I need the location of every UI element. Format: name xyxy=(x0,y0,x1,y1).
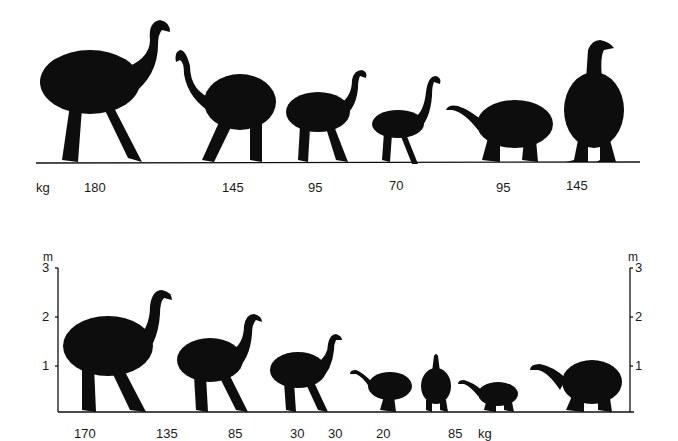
right-axis-tick-3: 3 xyxy=(635,261,642,275)
top-weight-label-6: 145 xyxy=(566,179,588,193)
bottom-bird-d-silhouette xyxy=(350,370,412,412)
bottom-weight-label-a: 170 xyxy=(74,427,96,441)
bottom-bird-c-silhouette xyxy=(270,334,342,412)
top-bird-6-silhouette xyxy=(564,40,624,162)
bottom-bird-b-silhouette xyxy=(177,314,262,412)
top-weight-label-3: 95 xyxy=(308,181,322,195)
right-axis-tick-1: 1 xyxy=(635,359,642,373)
bottom-weight-label-d: 30 xyxy=(290,427,304,441)
top-weight-label-5: 95 xyxy=(496,181,510,195)
bottom-weight-label-c: 85 xyxy=(228,427,242,441)
bottom-bird-a-silhouette xyxy=(63,290,172,412)
top-bird-4-silhouette xyxy=(372,76,441,164)
top-bird-3-silhouette xyxy=(286,70,367,162)
top-bird-2-silhouette xyxy=(176,50,277,162)
bottom-unit-label: kg xyxy=(478,427,492,441)
left-axis-tick-1: 1 xyxy=(42,359,49,373)
left-axis-tick-3: 3 xyxy=(42,261,49,275)
bottom-bird-e-silhouette xyxy=(421,354,451,412)
bottom-weight-label-g: 85 xyxy=(448,427,462,441)
left-axis-tick-2: 2 xyxy=(42,310,49,324)
bottom-bird-g-silhouette xyxy=(530,360,622,412)
bottom-weight-label-e: 30 xyxy=(328,427,342,441)
top-weight-label-2: 145 xyxy=(222,181,244,195)
top-weight-label-4: 70 xyxy=(389,179,403,193)
right-axis-tick-2: 2 xyxy=(635,310,642,324)
top-unit-label: kg xyxy=(36,181,50,195)
top-bird-5-silhouette xyxy=(446,100,553,162)
top-bird-1-silhouette xyxy=(40,20,170,162)
bottom-bird-f-silhouette xyxy=(458,380,518,412)
bottom-weight-label-b: 135 xyxy=(156,427,178,441)
top-weight-label-1: 180 xyxy=(84,181,106,195)
bottom-weight-label-f: 20 xyxy=(376,427,390,441)
top-ground-line xyxy=(36,162,640,163)
